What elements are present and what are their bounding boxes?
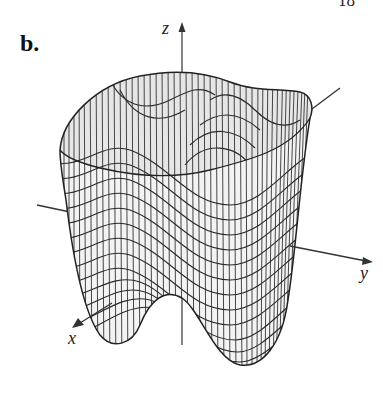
z-axis-arrow-icon: [179, 22, 186, 32]
axis-stub-right: [308, 88, 340, 112]
surface-plot: [0, 0, 383, 398]
axis-stub-left: [37, 205, 70, 212]
surface-body: [0, 0, 383, 398]
y-axis-arrow-icon: [362, 257, 373, 265]
y-axis: [290, 246, 373, 265]
x-axis-arrow-icon: [72, 318, 84, 328]
